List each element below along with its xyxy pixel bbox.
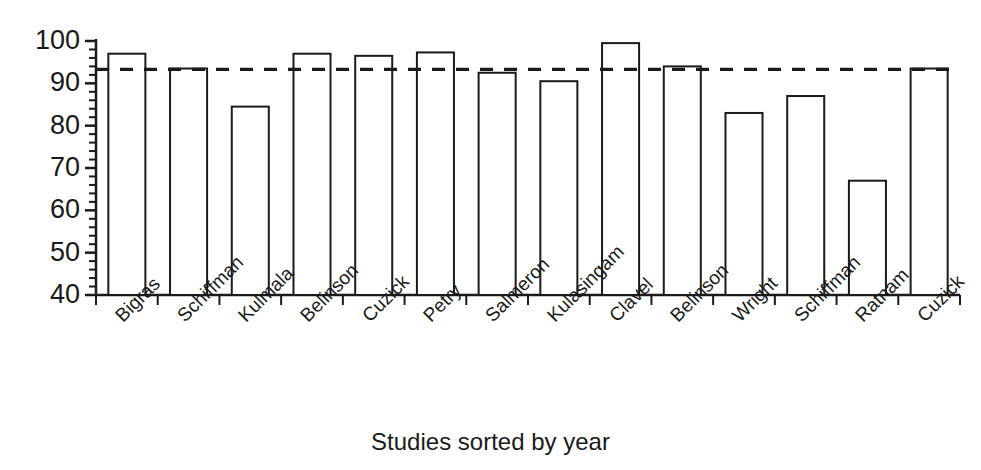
bar xyxy=(479,73,516,295)
bar xyxy=(355,56,392,295)
bar xyxy=(417,52,454,295)
bar xyxy=(664,66,701,295)
bar xyxy=(725,113,762,295)
chart-canvas xyxy=(0,0,981,470)
axes-group xyxy=(85,39,960,305)
y-axis-tick-label: 50 xyxy=(20,239,80,266)
y-axis-tick-label: 70 xyxy=(20,154,80,181)
bar xyxy=(293,54,330,295)
y-axis-tick-label: 90 xyxy=(20,69,80,96)
bar xyxy=(911,69,948,295)
bar xyxy=(849,181,886,295)
bar-chart-figure: 100908070605040 BigrasSchiffmanKulmalaBe… xyxy=(0,0,981,470)
y-axis-tick-label: 60 xyxy=(20,196,80,223)
bar xyxy=(108,54,145,295)
bar xyxy=(170,69,207,295)
bar xyxy=(787,96,824,295)
y-axis-tick-label: 40 xyxy=(20,281,80,308)
x-axis-title: Studies sorted by year xyxy=(0,428,981,456)
y-axis-tick-label: 80 xyxy=(20,112,80,139)
y-axis-tick-label: 100 xyxy=(20,27,80,54)
